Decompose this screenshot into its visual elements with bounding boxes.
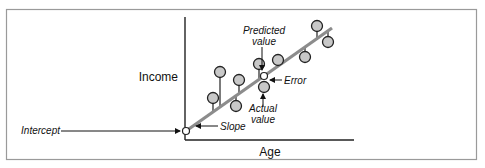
y-axis-label: Income <box>139 70 179 84</box>
data-point <box>323 37 334 48</box>
x-axis-label: Age <box>259 145 281 159</box>
data-point <box>231 101 242 112</box>
data-point <box>312 21 323 32</box>
slope-label: Slope <box>220 121 246 132</box>
intercept-point <box>183 128 190 135</box>
predicted-label-line2: value <box>252 36 276 47</box>
actual-label-line1: Actual <box>248 103 278 114</box>
actual-value-point <box>259 82 270 93</box>
data-point <box>273 55 284 66</box>
data-point <box>300 52 311 63</box>
actual-label-line2: value <box>251 114 275 125</box>
regression-diagram: Income Age Intercept Slope Predicted val… <box>0 0 485 168</box>
data-point <box>234 75 245 86</box>
predicted-label-line1: Predicted <box>243 25 286 36</box>
data-point <box>208 93 219 104</box>
data-point <box>215 67 226 78</box>
error-label: Error <box>284 75 307 86</box>
intercept-label: Intercept <box>21 125 61 136</box>
data-point <box>254 59 265 70</box>
predicted-value-point <box>261 73 268 80</box>
